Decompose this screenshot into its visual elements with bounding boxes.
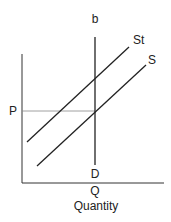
label-s: S — [148, 53, 156, 67]
supply-line — [37, 65, 146, 166]
label-b: b — [92, 12, 99, 26]
label-q: Q — [90, 184, 99, 198]
supply-demand-diagram: b St S P D Q Quantity — [0, 0, 171, 222]
label-st: St — [133, 33, 145, 47]
label-d: D — [91, 167, 100, 181]
x-axis-label: Quantity — [74, 199, 119, 213]
label-p: P — [9, 104, 17, 118]
